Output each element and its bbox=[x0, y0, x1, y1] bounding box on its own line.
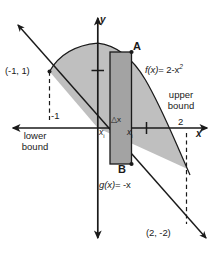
x-left-index: i bbox=[103, 133, 104, 139]
representative-rectangle bbox=[110, 52, 132, 164]
lower-curve-equation-label: g(x)= -x bbox=[99, 180, 131, 190]
upper-bound-line-2: bound bbox=[157, 101, 205, 112]
lower-bound-annotation: lower bound bbox=[6, 131, 64, 152]
g-of-x-expression: = -x bbox=[115, 179, 131, 190]
x-left-subscript-label: xi bbox=[99, 128, 105, 139]
point-b-label: B bbox=[118, 164, 126, 176]
x-tick-label-two: 2 bbox=[178, 117, 183, 127]
intersection-left-label: (-1, 1) bbox=[5, 66, 30, 76]
y-axis-label: y bbox=[100, 15, 106, 26]
x-tick-label-neg-one: -1 bbox=[51, 111, 59, 121]
f-of-x-exponent: 2 bbox=[179, 63, 183, 70]
x-right-index: i bbox=[131, 133, 132, 139]
upper-bound-annotation: upper bound bbox=[157, 90, 205, 111]
area-between-curves-figure bbox=[0, 0, 221, 254]
upper-curve-equation-label: f(x)= 2-x2 bbox=[145, 64, 183, 75]
point-b-marker bbox=[129, 162, 133, 166]
diagram-canvas: y x (-1, 1) (2, -2) -1 2 lower bound upp… bbox=[0, 0, 221, 254]
g-of-x-symbol: g(x) bbox=[99, 179, 115, 190]
intersection-right-label: (2, -2) bbox=[146, 228, 171, 238]
point-a-label: A bbox=[133, 41, 141, 53]
delta-x-label: △x bbox=[111, 116, 121, 124]
f-of-x-symbol: f(x) bbox=[145, 64, 158, 75]
intersection-left-marker bbox=[48, 70, 52, 74]
lower-bound-line-2: bound bbox=[6, 142, 64, 153]
x-axis-label: x bbox=[196, 129, 202, 140]
f-of-x-expression: = 2-x bbox=[158, 64, 179, 75]
x-right-subscript-label: xi bbox=[127, 128, 133, 139]
